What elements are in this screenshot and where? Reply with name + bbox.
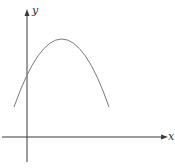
- x-axis-arrow-icon: [161, 135, 168, 140]
- y-axis-arrow-icon: [25, 9, 30, 16]
- parabola-curve: [14, 39, 109, 107]
- x-axis-label: x: [168, 131, 174, 142]
- parabola-diagram: [0, 0, 175, 168]
- y-axis-label: y: [32, 5, 38, 16]
